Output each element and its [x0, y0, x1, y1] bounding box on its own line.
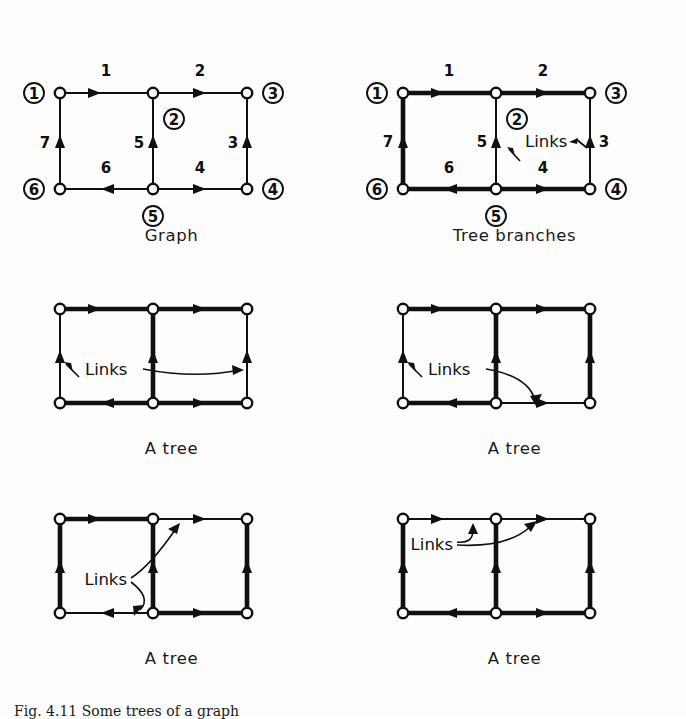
edge-3-arrowhead: [585, 560, 595, 573]
node-6: [398, 184, 408, 194]
edge-label-6: 6: [101, 159, 111, 177]
edge-6-arrowhead: [444, 184, 457, 194]
node-label-6: 6: [29, 181, 39, 199]
edge-5-arrowhead: [148, 135, 158, 148]
edge-label-4: 4: [195, 159, 205, 177]
node-1: [398, 514, 408, 524]
edge-6-arrowhead: [101, 398, 114, 408]
edge-2-arrowhead: [193, 514, 206, 524]
edge-label-7: 7: [383, 133, 393, 151]
node-label-4: 4: [268, 181, 278, 199]
links-pointer-left-arrowhead: [64, 362, 73, 372]
panel-tree-branches: 1 2 3 4 5 6 1 2 3 4 5 6 7 Links Tree bra…: [343, 30, 686, 260]
links-pointer-left-arrowhead: [468, 523, 478, 534]
node-label-2: 2: [169, 111, 179, 129]
node-1: [398, 88, 408, 98]
edge-6-arrowhead: [101, 608, 114, 618]
node-6: [55, 184, 65, 194]
links-pointer-right: [486, 369, 535, 400]
node-6: [55, 608, 65, 618]
edge-7-arrowhead: [398, 135, 408, 148]
edge-label-1: 1: [444, 62, 454, 80]
links-pointer-right: [576, 139, 587, 148]
node-2: [148, 514, 158, 524]
panel-graph: 1 2 3 4 5 6 1 2 3 4 5 6 7 Graph: [0, 30, 343, 260]
node-label-4: 4: [611, 181, 621, 199]
edge-6-arrowhead: [444, 608, 457, 618]
edge-label-2: 2: [195, 62, 205, 80]
node-label-5: 5: [491, 208, 501, 226]
node-2: [491, 304, 501, 314]
node-5: [148, 398, 158, 408]
panel-caption-tree-c: A tree: [0, 649, 343, 668]
node-4: [585, 398, 595, 408]
node-label-3: 3: [268, 85, 278, 103]
edge-4-arrowhead: [193, 184, 206, 194]
edge-2-arrowhead: [193, 88, 206, 98]
edge-1-arrowhead: [88, 514, 101, 524]
edge-7-arrowhead: [398, 350, 408, 363]
edge-6-arrowhead: [101, 184, 114, 194]
panel-caption-graph: Graph: [0, 226, 343, 245]
edge-label-5: 5: [134, 134, 144, 152]
node-1: [398, 304, 408, 314]
node-2: [491, 514, 501, 524]
edge-5-arrowhead: [491, 135, 501, 148]
node-2: [148, 304, 158, 314]
node-3: [242, 514, 252, 524]
edge-3-arrowhead: [585, 135, 595, 148]
node-label-3: 3: [611, 85, 621, 103]
node-3: [585, 514, 595, 524]
node-5: [491, 608, 501, 618]
node-6: [398, 608, 408, 618]
edge-label-2: 2: [538, 62, 548, 80]
edge-7-arrowhead: [55, 135, 65, 148]
node-1: [55, 88, 65, 98]
edge-label-1: 1: [101, 62, 111, 80]
links-label: Links: [85, 570, 127, 589]
edge-3-arrowhead: [242, 350, 252, 363]
edge-5-arrowhead: [491, 560, 501, 573]
edge-7-arrowhead: [398, 560, 408, 573]
edge-3-arrowhead: [242, 135, 252, 148]
edge-1-arrowhead: [431, 514, 444, 524]
panel-caption-tree-branches: Tree branches: [343, 226, 686, 245]
edge-5-arrowhead: [148, 350, 158, 363]
edge-label-6: 6: [444, 159, 454, 177]
links-pointer-right-arrowhead: [569, 138, 578, 144]
node-5: [491, 398, 501, 408]
node-label-5: 5: [148, 208, 158, 226]
panel-tree-c: Links A tree: [0, 486, 343, 716]
node-1: [55, 304, 65, 314]
edge-2-arrowhead: [536, 514, 549, 524]
node-4: [585, 608, 595, 618]
panel-tree-b: Links A tree: [343, 276, 686, 506]
links-pointer-right-arrowhead: [232, 365, 244, 375]
node-2: [148, 88, 158, 98]
node-label-1: 1: [29, 85, 39, 103]
edge-4-arrowhead: [193, 608, 206, 618]
node-3: [585, 88, 595, 98]
edge-label-4: 4: [538, 159, 548, 177]
node-1: [55, 514, 65, 524]
edge-1-arrowhead: [88, 88, 101, 98]
edge-label-3: 3: [228, 134, 238, 152]
node-3: [242, 304, 252, 314]
edge-3-arrowhead: [242, 560, 252, 573]
node-5: [148, 608, 158, 618]
edge-label-5: 5: [477, 133, 487, 151]
panel-tree-d: Links A tree: [343, 486, 686, 716]
node-3: [585, 304, 595, 314]
links-label: Links: [428, 360, 470, 379]
node-6: [398, 398, 408, 408]
node-label-1: 1: [372, 85, 382, 103]
edge-1-arrowhead: [431, 304, 444, 314]
links-pointer-right: [143, 369, 240, 374]
figure-caption: Fig. 4.11 Some trees of a graph: [0, 703, 686, 719]
edge-5-arrowhead: [491, 350, 501, 363]
edge-3-arrowhead: [585, 350, 595, 363]
edge-6-arrowhead: [444, 398, 457, 408]
edge-1-arrowhead: [88, 304, 101, 314]
edge-2-arrowhead: [536, 304, 549, 314]
